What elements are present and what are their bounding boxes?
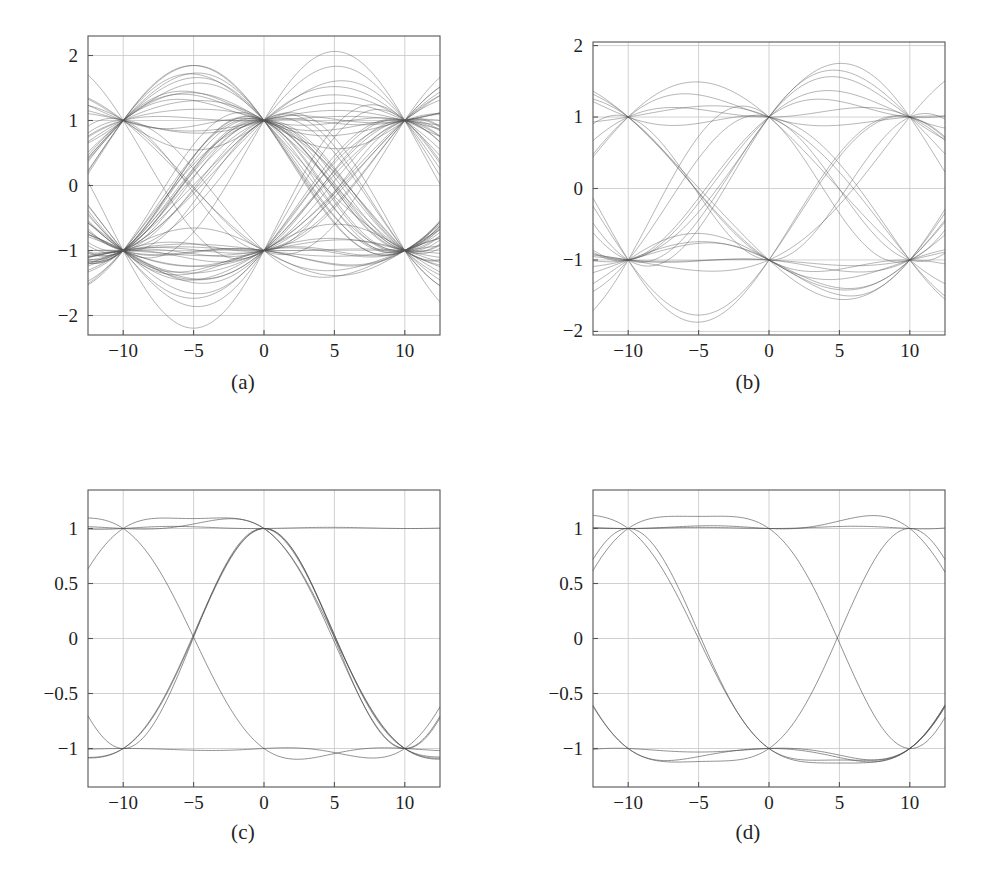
y-tick-label: −1 — [563, 738, 583, 759]
y-tick-label: 1 — [574, 106, 584, 127]
x-tick-label: 5 — [835, 792, 845, 813]
subplot-a-caption: (a) — [8, 370, 478, 395]
subplot-a: −10−50510−2−1012 (a) — [8, 18, 478, 370]
y-tick-label: 0 — [574, 628, 584, 649]
y-tick-label: 0.5 — [54, 573, 78, 594]
y-tick-label: −1 — [58, 738, 78, 759]
y-tick-label: −0.5 — [44, 683, 78, 704]
y-tick-label: −2 — [58, 305, 78, 326]
y-tick-label: 0 — [69, 628, 79, 649]
x-tick-label: 5 — [835, 340, 845, 361]
subplot-c-chart: −10−50510−1−0.500.51 — [8, 470, 478, 822]
subplot-b: −10−50510−2−1012 (b) — [513, 18, 983, 370]
x-tick-label: 10 — [395, 340, 414, 361]
y-tick-label: 1 — [574, 518, 584, 539]
y-tick-label: 1 — [69, 110, 79, 131]
x-tick-label: −5 — [688, 340, 708, 361]
x-tick-label: −5 — [183, 792, 203, 813]
y-tick-label: 0.5 — [559, 573, 583, 594]
subplot-d: −10−50510−1−0.500.51 (d) — [513, 470, 983, 822]
subplot-c: −10−50510−1−0.500.51 (c) — [8, 470, 478, 822]
x-tick-label: 10 — [395, 792, 414, 813]
x-tick-label: −10 — [108, 340, 138, 361]
y-tick-label: 2 — [574, 35, 584, 56]
x-tick-label: 0 — [764, 340, 774, 361]
subplot-b-plot-area: −10−50510−2−1012 — [513, 18, 983, 370]
y-tick-label: 0 — [69, 175, 79, 196]
y-tick-label: −0.5 — [549, 683, 583, 704]
subplot-a-plot-area: −10−50510−2−1012 — [8, 18, 478, 370]
y-tick-label: 2 — [69, 45, 79, 66]
x-tick-label: 10 — [900, 340, 919, 361]
x-tick-label: −10 — [108, 792, 138, 813]
x-tick-label: 0 — [764, 792, 774, 813]
subplot-d-caption: (d) — [513, 820, 983, 845]
y-tick-label: −1 — [58, 240, 78, 261]
subplot-d-chart: −10−50510−1−0.500.51 — [513, 470, 983, 822]
subplot-b-caption: (b) — [513, 370, 983, 395]
x-tick-label: 5 — [330, 792, 340, 813]
subplot-c-caption: (c) — [8, 820, 478, 845]
subplot-c-plot-area: −10−50510−1−0.500.51 — [8, 470, 478, 822]
subplot-a-chart: −10−50510−2−1012 — [8, 18, 478, 370]
x-tick-label: −10 — [613, 340, 643, 361]
x-tick-label: 0 — [259, 340, 269, 361]
x-tick-label: −5 — [688, 792, 708, 813]
eye-diagram-figure: −10−50510−2−1012 (a) −10−50510−2−1012 (b… — [0, 0, 983, 893]
y-tick-label: −2 — [563, 320, 583, 341]
y-tick-label: 0 — [574, 178, 584, 199]
x-tick-label: 10 — [900, 792, 919, 813]
x-tick-label: 0 — [259, 792, 269, 813]
subplot-d-plot-area: −10−50510−1−0.500.51 — [513, 470, 983, 822]
x-tick-label: −5 — [183, 340, 203, 361]
y-tick-label: −1 — [563, 249, 583, 270]
y-tick-label: 1 — [69, 518, 79, 539]
subplot-b-chart: −10−50510−2−1012 — [513, 18, 983, 370]
x-tick-label: 5 — [330, 340, 340, 361]
x-tick-label: −10 — [613, 792, 643, 813]
